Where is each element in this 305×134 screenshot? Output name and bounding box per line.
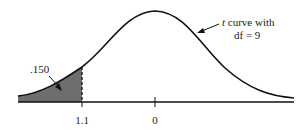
curve-arrow-line	[202, 24, 219, 31]
curve-label-line1: t curve with	[222, 16, 275, 28]
curve-label-rest: curve with	[225, 16, 275, 28]
shaded-area-label: .150	[30, 63, 50, 75]
x-tick-label-1: 1.1	[75, 114, 89, 126]
x-tick-label-0: 0	[152, 114, 158, 126]
t-distribution-chart: 1.1 0 .150 t curve with df = 9	[0, 0, 305, 134]
curve-arrow-head-icon	[197, 28, 205, 33]
curve-label-line2: df = 9	[234, 29, 261, 41]
shaded-tail-region	[18, 67, 82, 102]
